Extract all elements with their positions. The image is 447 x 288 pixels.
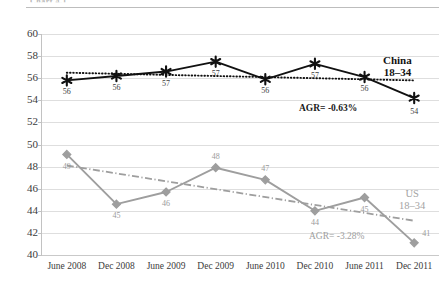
data-point-value-label: 44 — [305, 218, 325, 227]
data-point-marker — [410, 93, 419, 103]
legend-us: US 18–34 — [399, 188, 425, 212]
y-tick-label: 42 — [14, 226, 38, 238]
series-canvas — [42, 34, 439, 255]
data-point-value-label: 54 — [404, 107, 424, 116]
chart-root: Chart 4.1 565657575657565449454648474445… — [0, 0, 447, 288]
x-tick-label: Dec 2011 — [374, 261, 447, 271]
data-point-marker — [162, 188, 170, 196]
data-point-value-label: 41 — [416, 229, 436, 238]
data-point-value-label: 45 — [106, 211, 126, 220]
data-point-value-label: 47 — [255, 164, 275, 173]
y-tick-label: 44 — [14, 204, 38, 216]
y-tick-label: 48 — [14, 160, 38, 172]
plot-area: 56565757565756544945464847444541 — [42, 34, 439, 255]
legend-china-line2: 18–34 — [383, 66, 412, 78]
data-point-value-label: 56 — [255, 86, 275, 95]
data-point-value-label: 57 — [305, 71, 325, 80]
data-point-value-label: 56 — [106, 83, 126, 92]
y-tick-label: 58 — [14, 49, 38, 61]
data-point-value-label: 56 — [355, 84, 375, 93]
y-tick-label: 46 — [14, 182, 38, 194]
y-tick-mark — [38, 255, 42, 256]
y-tick-label: 60 — [14, 27, 38, 39]
y-tick-label: 50 — [14, 138, 38, 150]
cropped-header-text: Chart 4.1 — [30, 0, 67, 6]
gridline — [42, 255, 439, 256]
annotation-agr-china: AGR= -0.63% — [299, 103, 357, 113]
legend-us-line2: 18–34 — [399, 200, 425, 212]
data-point-marker — [212, 164, 220, 172]
y-tick-label: 52 — [14, 115, 38, 127]
data-point-value-label: 46 — [156, 199, 176, 208]
annotation-agr-us: AGR= -3.28% — [309, 231, 365, 241]
data-point-value-label: 49 — [57, 162, 77, 171]
legend-us-line1: US — [399, 188, 425, 200]
y-tick-label: 56 — [14, 71, 38, 83]
data-point-value-label: 45 — [355, 205, 375, 214]
legend-china-line1: China — [383, 54, 412, 66]
y-tick-label: 40 — [14, 248, 38, 260]
y-tick-label: 54 — [14, 93, 38, 105]
legend-china: China 18–34 — [383, 54, 412, 79]
data-point-value-label: 48 — [206, 152, 226, 161]
data-point-value-label: 57 — [156, 79, 176, 88]
data-point-value-label: 57 — [206, 69, 226, 78]
header-divider-rule — [26, 7, 439, 8]
data-point-value-label: 56 — [57, 87, 77, 96]
